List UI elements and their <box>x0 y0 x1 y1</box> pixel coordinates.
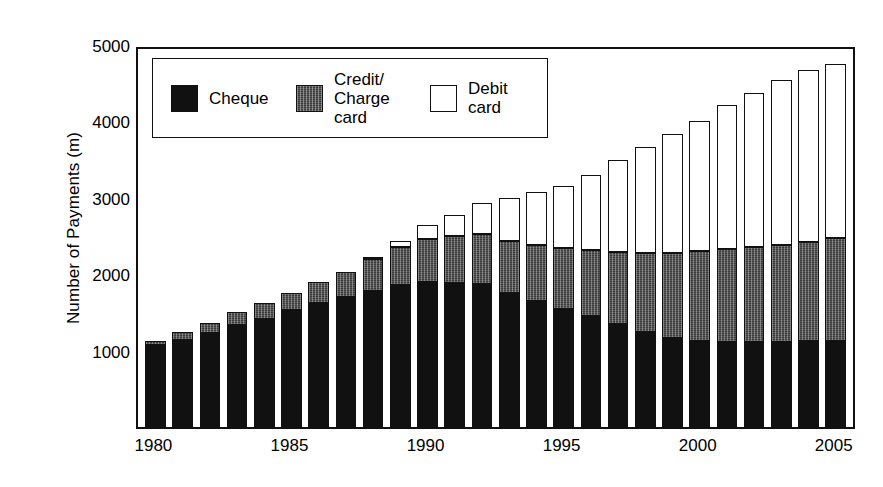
bar-1994[interactable] <box>526 192 547 427</box>
legend-entry-cheque: Cheque <box>171 59 269 137</box>
bar-segment-cheque <box>281 310 302 427</box>
bar-segment-cheque <box>145 345 166 428</box>
bar-1987[interactable] <box>336 272 357 427</box>
bar-segment-credit-charge-card <box>172 332 193 340</box>
bar-1993[interactable] <box>499 198 520 427</box>
bar-segment-debit-card <box>744 93 765 247</box>
bar-segment-credit-charge-card <box>417 239 438 282</box>
chart-legend: Cheque Credit/ Charge card Debit card <box>152 58 548 138</box>
y-tick-5000: 5000 <box>72 38 130 55</box>
bar-segment-cheque <box>499 293 520 427</box>
bar-1985[interactable] <box>281 293 302 427</box>
bar-1995[interactable] <box>553 186 574 427</box>
bar-segment-cheque <box>200 333 221 427</box>
bar-2003[interactable] <box>771 80 792 427</box>
bar-segment-cheque <box>825 341 846 427</box>
legend-entry-debit-card: Debit card <box>430 59 508 137</box>
bar-1983[interactable] <box>227 312 248 427</box>
bar-segment-cheque <box>662 338 683 427</box>
bar-1982[interactable] <box>200 323 221 427</box>
x-axis-tick-labels: 198019851990199520002005 <box>0 436 883 466</box>
bar-segment-cheque <box>254 319 275 427</box>
bar-segment-credit-charge-card <box>635 253 656 332</box>
bar-segment-cheque <box>308 303 329 427</box>
bar-segment-credit-charge-card <box>336 272 357 297</box>
bar-2005[interactable] <box>825 64 846 427</box>
legend-swatch-credit-charge-card-icon <box>296 85 323 112</box>
legend-label-cheque: Cheque <box>209 89 269 108</box>
bar-segment-cheque <box>798 341 819 427</box>
y-tick-2000: 2000 <box>72 267 130 284</box>
bar-segment-debit-card <box>798 70 819 242</box>
stacked-bar-chart: Number of Payments (m) 10002000300040005… <box>0 0 883 487</box>
bar-segment-debit-card <box>417 225 438 239</box>
bar-segment-cheque <box>472 284 493 427</box>
bar-segment-cheque <box>444 283 465 427</box>
bar-segment-cheque <box>689 341 710 427</box>
y-axis-tick-labels: 10002000300040005000 <box>60 0 130 487</box>
bar-1997[interactable] <box>608 160 629 427</box>
bar-1999[interactable] <box>662 134 683 427</box>
bar-1984[interactable] <box>254 303 275 427</box>
bar-2001[interactable] <box>717 105 738 427</box>
bar-segment-cheque <box>744 342 765 427</box>
bar-segment-credit-charge-card <box>662 253 683 338</box>
bar-segment-credit-charge-card <box>717 249 738 342</box>
bar-segment-cheque <box>771 342 792 427</box>
bar-1990[interactable] <box>417 225 438 427</box>
bar-segment-cheque <box>635 332 656 428</box>
bar-1988[interactable] <box>363 258 384 427</box>
bar-segment-debit-card <box>635 147 656 252</box>
bar-segment-cheque <box>172 340 193 427</box>
bar-2000[interactable] <box>689 121 710 427</box>
legend-label-credit-charge-card: Credit/ Charge card <box>334 70 390 127</box>
bar-segment-credit-charge-card <box>145 341 166 345</box>
bar-segment-debit-card <box>444 215 465 236</box>
x-tick-2005: 2005 <box>794 436 874 456</box>
x-tick-1980: 1980 <box>113 436 193 456</box>
bar-segment-cheque <box>581 316 602 427</box>
x-tick-2000: 2000 <box>658 436 738 456</box>
bar-segment-credit-charge-card <box>689 251 710 341</box>
bar-segment-cheque <box>526 301 547 427</box>
x-tick-1985: 1985 <box>249 436 329 456</box>
bar-segment-debit-card <box>581 175 602 250</box>
bar-segment-cheque <box>336 297 357 427</box>
bar-1981[interactable] <box>172 332 193 428</box>
bar-2004[interactable] <box>798 70 819 427</box>
bar-1989[interactable] <box>390 241 411 427</box>
bar-segment-debit-card <box>553 186 574 248</box>
bar-segment-credit-charge-card <box>200 323 221 333</box>
bar-segment-debit-card <box>717 105 738 249</box>
y-tick-1000: 1000 <box>72 344 130 361</box>
bar-segment-credit-charge-card <box>499 241 520 293</box>
bar-segment-credit-charge-card <box>308 282 329 303</box>
bar-segment-cheque <box>227 325 248 427</box>
bar-segment-cheque <box>417 282 438 427</box>
x-tick-1990: 1990 <box>386 436 466 456</box>
y-tick-4000: 4000 <box>72 114 130 131</box>
bar-segment-debit-card <box>472 203 493 234</box>
bar-1992[interactable] <box>472 203 493 427</box>
bar-segment-debit-card <box>499 198 520 241</box>
bar-segment-debit-card <box>390 241 411 246</box>
bar-1991[interactable] <box>444 215 465 427</box>
y-tick-3000: 3000 <box>72 191 130 208</box>
x-tick-1995: 1995 <box>522 436 602 456</box>
bar-2002[interactable] <box>744 93 765 427</box>
bar-segment-debit-card <box>526 192 547 245</box>
bar-segment-credit-charge-card <box>472 234 493 284</box>
bar-segment-credit-charge-card <box>281 293 302 311</box>
bar-segment-credit-charge-card <box>581 250 602 316</box>
bar-1998[interactable] <box>635 147 656 427</box>
bar-segment-credit-charge-card <box>798 242 819 341</box>
bar-1986[interactable] <box>308 282 329 427</box>
bar-segment-credit-charge-card <box>227 312 248 325</box>
bar-segment-credit-charge-card <box>744 247 765 343</box>
bar-1996[interactable] <box>581 175 602 427</box>
bar-segment-cheque <box>363 291 384 427</box>
bar-1980[interactable] <box>145 341 166 427</box>
bar-segment-credit-charge-card <box>526 245 547 301</box>
bar-segment-credit-charge-card <box>390 247 411 285</box>
bar-segment-credit-charge-card <box>254 303 275 318</box>
